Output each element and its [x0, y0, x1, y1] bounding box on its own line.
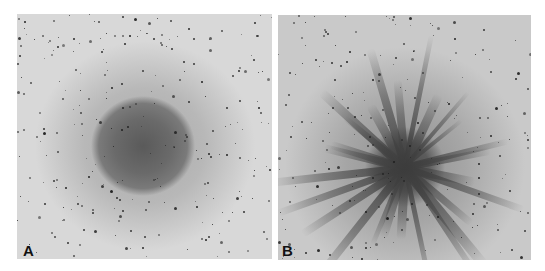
speckle-dot: [88, 98, 90, 100]
speckle-dot: [174, 131, 177, 134]
speckle-dot: [53, 20, 55, 22]
speckle-dot: [294, 257, 295, 258]
speckle-dot: [75, 69, 77, 71]
speckle-dot: [378, 73, 381, 76]
speckle-dot: [208, 153, 210, 155]
speckle-dot: [142, 247, 144, 249]
speckle-dot: [352, 257, 353, 258]
speckle-dot: [111, 87, 113, 89]
speckle-dot: [83, 229, 85, 231]
speckle-dot: [236, 197, 239, 200]
speckle-dot: [406, 218, 409, 221]
speckle-dot: [65, 187, 67, 189]
speckle-dot: [34, 39, 35, 40]
speckle-dot: [456, 115, 457, 116]
speckle-dot: [364, 100, 365, 101]
speckle-dot: [505, 174, 506, 175]
speckle-dot: [135, 103, 137, 105]
speckle-dot: [254, 22, 256, 24]
speckle-dot: [81, 205, 83, 207]
speckle-dot: [411, 203, 413, 205]
speckle-dot: [347, 107, 349, 109]
speckle-dot: [403, 43, 405, 45]
speckle-dot: [188, 101, 190, 103]
speckle-dot: [256, 35, 258, 37]
speckle-dot: [114, 208, 115, 209]
speckle-dot: [130, 230, 132, 232]
speckle-dot: [239, 191, 240, 192]
speckle-dot: [392, 19, 394, 21]
speckle-dot: [478, 177, 480, 179]
speckle-dot: [73, 109, 74, 110]
speckle-dot: [298, 15, 300, 17]
speckle-dot: [115, 235, 116, 236]
speckle-dot: [104, 74, 106, 76]
speckle-dot: [147, 33, 148, 34]
speckle-dot: [208, 236, 210, 238]
speckle-dot: [228, 220, 230, 222]
speckle-dot: [44, 203, 46, 205]
speckle-dot: [146, 256, 147, 257]
speckle-dot: [177, 36, 178, 37]
speckle-dot: [429, 215, 430, 216]
speckle-dot: [239, 157, 241, 159]
speckle-dot: [253, 175, 255, 177]
speckle-dot: [107, 70, 108, 71]
speckle-dot: [24, 28, 25, 29]
speckle-dot: [88, 176, 90, 178]
speckle-dot: [38, 216, 41, 219]
speckle-dot: [501, 105, 502, 106]
speckle-dot: [140, 30, 141, 31]
speckle-dot: [63, 219, 65, 221]
speckle-dot: [86, 158, 87, 159]
speckle-dot: [378, 206, 380, 208]
speckle-dot: [402, 211, 403, 212]
speckle-dot: [285, 229, 286, 230]
speckle-dot: [363, 92, 364, 93]
speckle-dot: [386, 232, 387, 233]
speckle-dot: [79, 105, 80, 106]
speckle-dot: [241, 196, 242, 197]
speckle-dot: [509, 190, 511, 192]
speckle-dot: [148, 201, 150, 203]
speckle-dot: [57, 151, 59, 153]
speckle-dot: [425, 250, 426, 251]
speckle-dot: [230, 124, 231, 125]
speckle-dot: [80, 90, 81, 91]
speckle-dot: [20, 196, 21, 197]
speckle-dot: [67, 242, 69, 244]
speckle-dot: [143, 116, 144, 117]
speckle-dot: [386, 16, 387, 17]
speckle-dot: [417, 122, 419, 124]
speckle-dot: [515, 40, 516, 41]
speckle-dot: [289, 72, 291, 74]
speckle-dot: [389, 18, 390, 19]
speckle-dot: [51, 54, 53, 56]
speckle-dot: [289, 201, 291, 203]
speckle-dot: [228, 251, 230, 253]
speckle-dot: [426, 204, 428, 206]
speckle-dot: [238, 70, 240, 72]
speckle-dot: [332, 205, 333, 206]
speckle-dot: [122, 210, 124, 212]
speckle-dot: [363, 190, 364, 191]
speckle-dot: [529, 53, 531, 56]
speckle-dot: [311, 122, 312, 123]
speckle-dot: [48, 42, 49, 43]
speckle-dot: [20, 45, 22, 47]
speckle-dot: [434, 110, 436, 112]
speckle-dot: [23, 129, 25, 131]
speckle-dot: [326, 149, 328, 151]
speckle-dot: [106, 92, 107, 93]
speckle-dot: [221, 30, 223, 32]
speckle-dot: [195, 201, 196, 202]
speckle-dot: [202, 222, 203, 223]
speckle-dot: [325, 31, 327, 33]
speckle-dot: [205, 96, 206, 97]
speckle-dot: [314, 170, 316, 172]
speckle-dot: [17, 91, 20, 94]
speckle-dot: [327, 33, 329, 35]
speckle-dot: [410, 25, 411, 26]
speckle-dot: [489, 59, 490, 60]
speckle-dot: [349, 51, 351, 53]
